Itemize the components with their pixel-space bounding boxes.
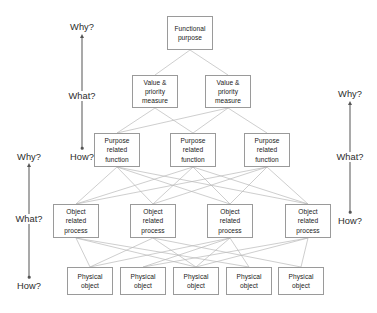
axis-right-bottom-label: How?	[338, 216, 362, 226]
edge-14	[193, 167, 230, 204]
edge-2	[190, 50, 228, 75]
edge-6	[193, 108, 228, 133]
edge-27	[143, 238, 230, 267]
edge-29	[230, 238, 249, 267]
edge-3	[117, 108, 155, 133]
edge-11	[117, 167, 308, 204]
node-physical-object-1[interactable]: Physical object	[67, 267, 113, 295]
node-value-priority-measure-1[interactable]: Value & priority measure	[132, 75, 178, 108]
node-physical-object-2[interactable]: Physical object	[120, 267, 166, 295]
edge-7	[228, 108, 267, 133]
abstraction-hierarchy-diagram: Functional purposeValue & priority measu…	[0, 0, 377, 313]
edge-4	[155, 108, 193, 133]
node-object-related-process-3[interactable]: Object related process	[207, 204, 253, 238]
edge-17	[153, 167, 267, 204]
edge-31	[196, 238, 308, 267]
axis-left-outer-bottom-label: How?	[17, 281, 41, 291]
axis-left-outer-endpoint-dot-icon	[28, 276, 31, 279]
axis-left-inner-endpoint-dot-icon	[81, 147, 84, 150]
node-value-priority-measure-2[interactable]: Value & priority measure	[205, 75, 251, 108]
edge-28	[196, 238, 230, 267]
edge-24	[153, 238, 196, 267]
edge-1	[155, 50, 190, 75]
edge-25	[153, 238, 301, 267]
edge-9	[117, 167, 153, 204]
edge-30	[143, 238, 308, 267]
node-physical-object-5[interactable]: Physical object	[278, 267, 324, 295]
edge-16	[76, 167, 267, 204]
edge-22	[76, 238, 249, 267]
edge-5	[117, 108, 228, 133]
axis-left-inner-bottom-label: How?	[70, 152, 94, 162]
edge-8	[76, 167, 117, 204]
node-physical-object-4[interactable]: Physical object	[226, 267, 272, 295]
axis-right-top-label: Why?	[338, 89, 362, 99]
axis-left-inner-top-label: Why?	[70, 22, 94, 32]
edge-10	[117, 167, 230, 204]
axis-left-outer-mid-label: What?	[14, 214, 45, 224]
edge-18	[230, 167, 267, 204]
node-purpose-related-function-2[interactable]: Purpose related function	[170, 133, 216, 167]
node-physical-object-3[interactable]: Physical object	[173, 267, 219, 295]
node-purpose-related-function-3[interactable]: Purpose related function	[244, 133, 290, 167]
axis-right-mid-label: What?	[335, 152, 366, 162]
node-purpose-related-function-1[interactable]: Purpose related function	[94, 133, 140, 167]
edge-12	[76, 167, 193, 204]
node-functional-purpose-1[interactable]: Functional purpose	[167, 16, 213, 50]
axis-left-outer-top-label: Why?	[17, 152, 41, 162]
edge-20	[76, 238, 90, 267]
edge-26	[90, 238, 230, 267]
edge-13	[153, 167, 193, 204]
node-object-related-process-1[interactable]: Object related process	[53, 204, 99, 238]
edge-19	[267, 167, 308, 204]
edge-23	[90, 238, 153, 267]
edge-21	[76, 238, 196, 267]
node-object-related-process-2[interactable]: Object related process	[130, 204, 176, 238]
edge-32	[301, 238, 308, 267]
axis-left-inner-mid-label: What?	[67, 91, 98, 101]
axis-right-endpoint-dot-icon	[349, 211, 352, 214]
edge-15	[193, 167, 308, 204]
node-object-related-process-4[interactable]: Object related process	[285, 204, 331, 238]
